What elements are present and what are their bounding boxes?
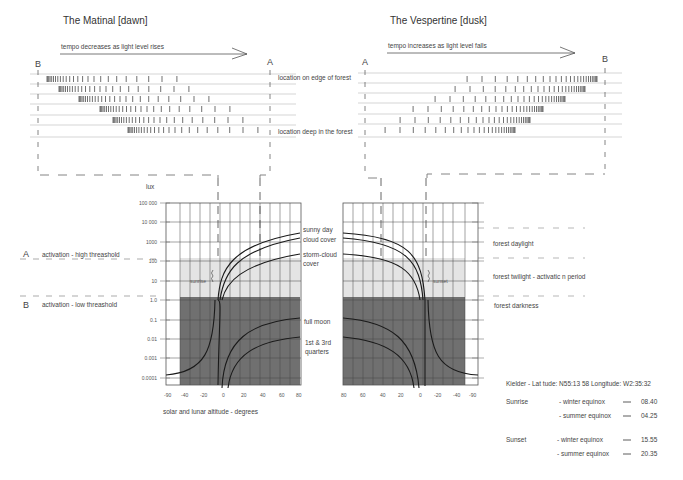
zone-daylight-label: forest daylight (493, 240, 533, 247)
threshold-b-letter: B (23, 300, 29, 310)
x-tick-left: -20 (200, 392, 207, 398)
storm-cloud-label: storm-cloud (303, 251, 337, 258)
marker-dashes (38, 68, 605, 172)
diagram-canvas (0, 0, 683, 480)
x-tick-right: -20 (434, 392, 441, 398)
location-info-header: Kielder - Lat tude: N55:13 58 Longitude:… (506, 380, 651, 387)
marker-b-right: B (602, 54, 608, 64)
matinal-title: The Matinal [dawn] (63, 15, 148, 26)
x-tick-right: 40 (380, 392, 386, 398)
quarters-label: 1st & 3rd (305, 339, 331, 346)
x-axis-label: solar and lunar altitude - degrees (163, 408, 258, 415)
x-tick-right: 80 (341, 392, 347, 398)
y-tick: 0.001 (144, 355, 157, 361)
marker-a-right: A (362, 57, 368, 67)
zone-darkness-label: forest darkness (494, 302, 538, 309)
sunny-day-label: sunny day (303, 226, 333, 233)
vespertine-title: The Vespertine [dusk] (390, 15, 487, 26)
x-tick-left: 0 (222, 392, 225, 398)
matinal-arrow-label: tempo decreases as light level rises (61, 43, 164, 50)
x-tick-right: 60 (360, 392, 366, 398)
sunrise-summer-season: - summer equinox (559, 412, 611, 419)
y-axis-ticks (160, 203, 170, 378)
x-tick-right: -90 (469, 392, 476, 398)
x-tick-left: 60 (279, 392, 285, 398)
x-tick-left: -90 (164, 392, 171, 398)
storm-cloud-label-2: cover (303, 260, 319, 267)
y-tick: 10 000 (142, 219, 157, 225)
vespertine-row-rules (358, 73, 622, 137)
x-tick-left: 40 (260, 392, 266, 398)
sunrise-heading: Sunrise (506, 398, 528, 405)
y-tick: 0.0001 (142, 375, 157, 381)
connector-dashes (40, 174, 605, 178)
sunrise-summer-time: 04.25 (641, 412, 657, 419)
lux-axis-label: lux (146, 183, 154, 190)
zone-dashes (478, 228, 585, 296)
sunset-summer-season: - summer equinox (557, 450, 609, 457)
y-tick: 10 (151, 278, 157, 284)
zone-twilight-label: forest twilight - activatic n period (493, 273, 585, 280)
sunset-heading: Sunset (506, 436, 526, 443)
x-tick-right: -40 (453, 392, 460, 398)
quarters-label-2: quarters (305, 348, 329, 355)
sunrise-label: sunrise (190, 278, 206, 284)
full-moon-label: full moon (304, 318, 330, 325)
threshold-b-label: activation - low threashold (42, 301, 117, 308)
sunrise-winter-time: 08.40 (641, 398, 657, 405)
threshold-a-label: activation - high threashold (42, 251, 120, 258)
y-tick: 0.01 (147, 336, 157, 342)
sunset-winter-season: - winter equinox (557, 436, 603, 443)
matinal-row-rules (30, 74, 296, 137)
marker-b-left: B (35, 59, 41, 69)
threshold-a-letter: A (23, 249, 29, 259)
y-tick: 0.1 (150, 317, 157, 323)
x-tick-left: 20 (241, 392, 247, 398)
dawn-chart (166, 203, 301, 388)
location-edge-label: location on edge of forest (278, 74, 351, 81)
x-tick-left: -40 (181, 392, 188, 398)
sunset-summer-time: 20.35 (641, 450, 657, 457)
x-tick-right: 0 (419, 392, 422, 398)
y-tick: 1.0 (150, 297, 157, 303)
sunrise-winter-season: - winter equinox (559, 398, 605, 405)
y-tick: 100 (149, 258, 157, 264)
x-tick-right: 20 (398, 392, 404, 398)
sunset-winter-time: 15.55 (641, 436, 657, 443)
location-deep-label: location deep in the forest (278, 128, 352, 135)
info-dashes (623, 402, 631, 454)
dusk-chart (343, 203, 478, 388)
threshold-dashes (20, 259, 160, 296)
sunset-label: sunset (433, 278, 448, 284)
x-tick-left: 80 (296, 392, 302, 398)
y-tick: 100 000 (139, 200, 157, 206)
y-tick: 1000 (146, 239, 157, 245)
tempo-tick-rows (47, 76, 597, 133)
vespertine-arrow-label: tempo increases as light level falls (388, 42, 487, 49)
marker-a-left: A (267, 57, 273, 67)
cloud-cover-label: cloud cover (303, 236, 336, 243)
